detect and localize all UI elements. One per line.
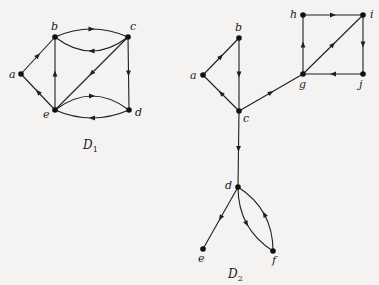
vertex-d2-j [360,71,366,77]
vertex-label-d2-h: h [290,8,297,21]
caption-subscript: 2 [238,274,243,283]
vertex-d2-c [236,108,242,114]
arrowhead-icon [267,89,275,96]
arrowhead-icon [237,72,242,78]
arrowhead-icon [126,70,131,76]
vertex-label-d1-b: b [51,20,58,33]
vertex-label-d2-d: d [225,179,232,192]
vertex-d1-d [126,107,132,113]
arrowhead-icon [217,214,224,222]
vertex-d2-i [360,12,366,18]
arrowhead-icon [330,13,336,18]
arrowhead-icon [53,71,58,77]
arrowhead-icon [89,49,95,54]
vertex-label-d2-j: j [356,78,363,91]
vertex-d1-c [125,34,131,40]
arrowhead-icon [236,146,241,152]
caption-d1: D1 [82,138,98,154]
edge-d1-b-c [55,29,128,37]
arrowhead-icon [261,210,268,218]
vertex-d2-e [200,246,206,252]
nodes-layer [18,12,366,254]
vertex-label-d2-i: i [370,8,374,21]
caption-main: D [227,267,238,281]
vertex-d2-d [235,184,241,190]
edges-layer [21,13,365,251]
vertex-label-d2-b: b [235,21,242,34]
labels-layer: abcdeD1abcdefghijD2 [9,8,374,283]
edge-d1-c-b [55,37,128,51]
vertex-label-d2-g: g [299,78,306,91]
arrowhead-icon [89,94,95,99]
vertex-d1-b [52,34,58,40]
vertex-label-d2-e: e [198,252,205,265]
vertex-d2-g [300,71,306,77]
vertex-d1-a [18,71,24,77]
arrowhead-icon [301,42,306,48]
vertex-d2-a [200,72,206,78]
vertex-label-d1-d: d [135,106,142,119]
vertex-d2-f [270,248,276,254]
vertex-label-d2-a: a [190,69,197,82]
digraph-figure: abcdeD1abcdefghijD2 [0,0,379,285]
vertex-label-d1-e: e [43,108,50,121]
edge-d2-f-d [238,187,273,251]
edge-d2-d-f [238,187,273,251]
arrowhead-icon [89,27,95,32]
arrowhead-icon [89,116,95,121]
caption-d2: D2 [227,267,243,283]
vertex-label-d2-f: f [271,254,278,267]
arrowhead-icon [330,72,336,77]
arrowhead-icon [361,42,366,48]
caption-subscript: 1 [93,145,98,154]
caption-main: D [82,138,93,152]
vertex-d2-h [300,12,306,18]
edge-d1-e-d [55,96,129,110]
vertex-d1-e [52,107,58,113]
vertex-label-d2-c: c [243,112,249,125]
vertex-d2-b [236,35,242,41]
arrowhead-icon [243,220,250,228]
vertex-label-d1-c: c [130,20,136,33]
vertex-label-d1-a: a [9,68,16,81]
